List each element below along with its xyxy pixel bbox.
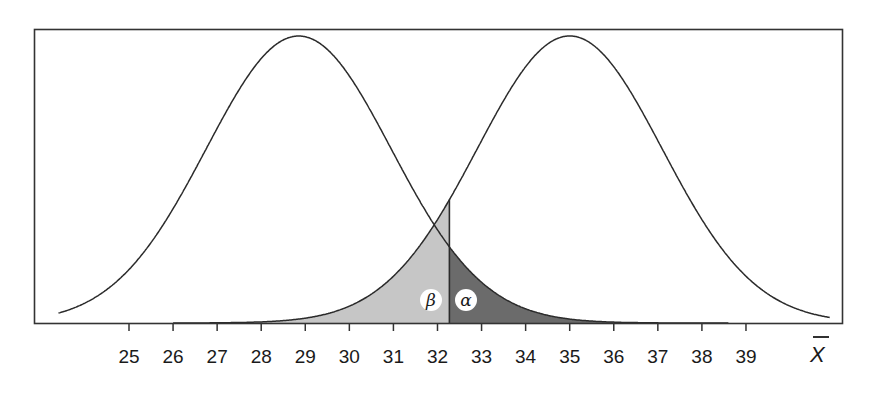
x-tick-label: 35: [559, 346, 580, 367]
x-axis: 252627282930313233343536373839: [118, 324, 756, 367]
x-tick-label: 38: [691, 346, 712, 367]
x-tick-label: 36: [603, 346, 624, 367]
x-tick-label: 37: [647, 346, 668, 367]
right-distribution-curve: [173, 36, 830, 323]
x-tick-label: 25: [118, 346, 139, 367]
x-tick-label: 34: [515, 346, 537, 367]
x-axis-label-text: X: [809, 342, 826, 367]
x-tick-label: 30: [339, 346, 360, 367]
beta-label: β: [425, 290, 436, 310]
x-tick-label: 33: [471, 346, 492, 367]
shaded-regions: [173, 200, 728, 323]
alpha-label: α: [460, 290, 472, 310]
x-tick-label: 26: [162, 346, 183, 367]
sampling-distribution-chart: 252627282930313233343536373839 βα X: [0, 0, 879, 393]
x-tick-label: 39: [735, 346, 756, 367]
x-tick-label: 31: [383, 346, 404, 367]
x-tick-label: 32: [427, 346, 448, 367]
x-tick-label: 27: [207, 346, 228, 367]
x-tick-label: 28: [251, 346, 272, 367]
x-axis-label: X: [809, 337, 829, 367]
x-tick-label: 29: [295, 346, 316, 367]
alpha-region: [449, 247, 728, 323]
